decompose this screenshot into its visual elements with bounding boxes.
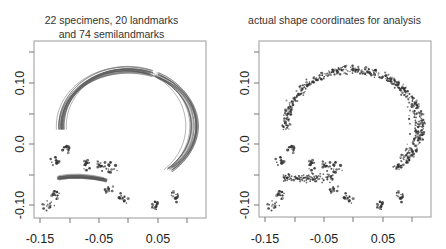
left-plot-canvas: -0.15 -0.05 0.05 -0.10 0.0 0.10 <box>0 0 223 249</box>
x-tick-label: -0.05 <box>85 232 114 246</box>
x-tick-label: 0.05 <box>146 232 170 246</box>
shape-coordinate-points <box>266 65 425 212</box>
y-axis-ticks <box>29 52 34 205</box>
x-axis-ticks <box>40 218 187 223</box>
y-axis-ticks <box>254 52 259 205</box>
x-tick-label: -0.15 <box>26 232 55 246</box>
x-axis-ticks <box>265 217 412 222</box>
y-tick-label: 0.0 <box>13 135 27 152</box>
y-tick-label: -0.10 <box>13 191 27 220</box>
y-tick-label: 0.0 <box>238 135 252 152</box>
x-tick-label: -0.05 <box>310 232 339 246</box>
y-tick-label: 0.10 <box>238 71 252 95</box>
x-tick-label: -0.15 <box>251 232 280 246</box>
y-tick-label: 0.10 <box>13 71 27 95</box>
left-plot-panel: 22 specimens, 20 landmarks and 74 semila… <box>0 0 223 249</box>
y-tick-label: -0.10 <box>238 191 252 220</box>
right-plot-canvas: -0.15 -0.05 0.05 -0.10 0.0 0.10 <box>223 0 446 249</box>
x-tick-label: 0.05 <box>371 232 395 246</box>
specimen-curves <box>56 66 198 182</box>
right-plot-panel: actual shape coordinates for analysis -0… <box>223 0 446 249</box>
